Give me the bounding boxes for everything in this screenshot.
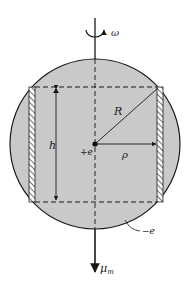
omega-label: ω: [111, 27, 119, 38]
h-label: h: [49, 139, 56, 152]
minus-e-label: −e: [142, 226, 155, 236]
right-shell-wall: [157, 87, 163, 202]
mu-label: μm: [100, 262, 114, 276]
charged-sphere-diagram: ω R h +e ρ −e μm: [0, 0, 190, 285]
center-charge-dot: [92, 141, 97, 146]
rho-label: ρ: [121, 149, 128, 160]
R-label: R: [113, 105, 122, 118]
plus-e-label: +e: [80, 147, 93, 157]
left-shell-wall: [29, 87, 35, 202]
